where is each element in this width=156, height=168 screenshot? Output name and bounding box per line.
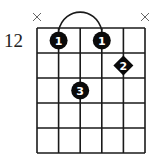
finger-number: 3	[76, 85, 84, 98]
finger-marker: 1	[50, 32, 68, 50]
mute-x-icon	[33, 13, 41, 21]
finger-number: 2	[120, 60, 128, 73]
chord-diagram: 12 1123	[0, 0, 156, 168]
finger-marker: 2	[113, 56, 133, 76]
finger-number: 1	[55, 35, 63, 48]
finger-markers: 1123	[50, 32, 134, 100]
base-fret-label: 12	[4, 30, 23, 51]
finger-marker: 1	[93, 32, 111, 50]
mute-x-icon	[141, 13, 149, 21]
finger-number: 1	[98, 35, 106, 48]
finger-marker: 3	[71, 82, 89, 100]
